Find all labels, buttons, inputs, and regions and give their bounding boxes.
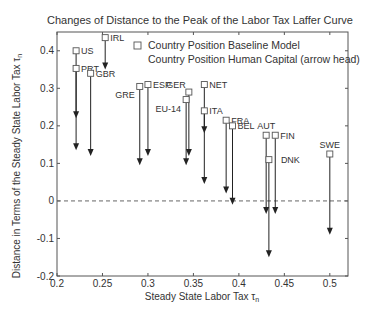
country-point-net: NET: [201, 80, 228, 184]
y-tick-label: 0.1: [40, 158, 54, 169]
chart-title: Changes of Distance to the Peak of the L…: [47, 14, 353, 26]
arrowhead-icon: [186, 149, 192, 156]
arrowhead-icon: [327, 228, 333, 235]
country-label: FIN: [280, 131, 295, 141]
country-label: AUT: [257, 121, 276, 131]
square-marker-icon: [73, 65, 79, 71]
country-point-eu-14: EU-14: [156, 97, 190, 166]
laffer-chart: Changes of Distance to the Peak of the L…: [0, 0, 366, 311]
y-tick-label: -0.2: [37, 271, 55, 282]
arrowhead-icon: [73, 143, 79, 150]
square-marker-icon: [223, 117, 229, 123]
country-point-ita: ITA: [201, 106, 222, 133]
square-marker-icon: [266, 157, 272, 163]
country-point-irl: IRL: [102, 33, 124, 69]
arrowhead-icon: [223, 186, 229, 193]
country-label: US: [81, 46, 94, 56]
square-marker-icon: [272, 132, 278, 138]
x-tick-label: 0.45: [275, 278, 295, 289]
x-tick-label: 0.5: [323, 278, 337, 289]
country-label: GBR: [96, 69, 116, 79]
square-marker-icon: [183, 97, 189, 103]
y-tick-label: -0.1: [37, 233, 55, 244]
arrowhead-icon: [183, 158, 189, 165]
country-point-fin: FIN: [272, 131, 295, 214]
country-point-bel: BEL: [230, 121, 255, 204]
square-marker-icon: [201, 108, 207, 114]
x-tick-label: 0.3: [141, 278, 155, 289]
square-marker-icon: [327, 151, 333, 157]
square-marker-icon: [73, 48, 79, 54]
arrowhead-icon: [272, 207, 278, 214]
arrowhead-icon: [266, 250, 272, 257]
y-tick-label: 0.3: [40, 83, 54, 94]
country-label: GRE: [115, 90, 135, 100]
country-label: SWE: [320, 140, 341, 150]
country-label: GER: [166, 80, 186, 90]
country-label: IRL: [110, 33, 124, 43]
square-marker-icon: [201, 82, 207, 88]
legend-entry-baseline: Country Position Baseline Model: [148, 39, 300, 51]
square-marker-icon: [137, 83, 143, 89]
x-axis-label: Steady State Labor Tax τn: [145, 291, 260, 303]
country-point-swe: SWE: [320, 140, 341, 235]
country-point-dnk: DNK: [266, 155, 300, 257]
y-tick-label: 0.4: [40, 45, 54, 56]
country-point-gre: GRE: [115, 83, 143, 165]
square-marker-icon: [263, 132, 269, 138]
data-points: USIRLPRTGBRGREESPGEREU-14NETITAFRABELAUT…: [73, 33, 340, 257]
country-label: BEL: [238, 121, 255, 131]
arrowhead-icon: [88, 149, 94, 156]
country-point-ger: GER: [166, 80, 192, 156]
legend-entry-human-capital: Country Position Human Capital (arrow he…: [148, 53, 360, 65]
arrowhead-icon: [201, 177, 207, 184]
legend-square-icon: [134, 42, 141, 49]
y-axis-label: Distance in Terms of the Steady State La…: [11, 54, 23, 278]
country-point-gbr: GBR: [88, 69, 116, 156]
country-label: ITA: [209, 106, 222, 116]
arrowhead-icon: [201, 126, 207, 133]
country-label: EU-14: [156, 104, 182, 114]
y-tick-label: 0.2: [40, 120, 54, 131]
arrowhead-icon: [145, 149, 151, 156]
legend: Country Position Baseline ModelCountry P…: [134, 39, 360, 65]
square-marker-icon: [230, 123, 236, 129]
arrowhead-icon: [137, 158, 143, 165]
square-marker-icon: [186, 89, 192, 95]
square-marker-icon: [88, 70, 94, 76]
square-marker-icon: [145, 82, 151, 88]
arrowhead-icon: [263, 207, 269, 214]
x-tick-label: 0.35: [184, 278, 204, 289]
x-tick-label: 0.4: [232, 278, 246, 289]
country-label: DNK: [281, 155, 300, 165]
square-marker-icon: [102, 35, 108, 41]
country-point-esp: ESP: [145, 80, 171, 156]
y-tick-label: 0: [48, 195, 54, 206]
country-label: NET: [209, 80, 228, 90]
x-tick-label: 0.25: [93, 278, 113, 289]
